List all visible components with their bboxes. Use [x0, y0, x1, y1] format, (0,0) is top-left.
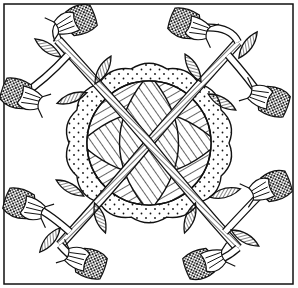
quilt-block-svg [0, 0, 298, 288]
quilt-block-illustration [0, 0, 298, 288]
